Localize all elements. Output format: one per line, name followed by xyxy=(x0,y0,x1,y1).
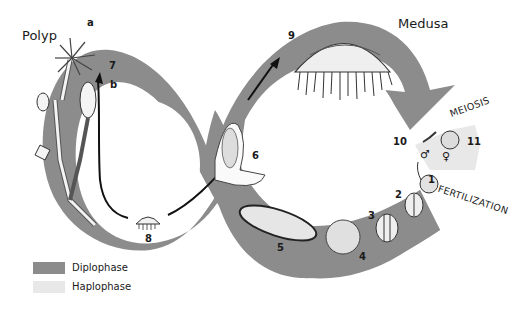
legend-label-haplophase: Haplophase xyxy=(72,281,131,292)
female-symbol: ♀ xyxy=(442,150,450,163)
two-cell-illustration xyxy=(405,193,423,217)
stage-3-number: 3 xyxy=(368,210,375,221)
stage-4-number: 4 xyxy=(359,251,366,262)
stage-6-number: 6 xyxy=(252,150,259,161)
stage-5-number: 5 xyxy=(277,242,284,253)
male-symbol: ♂ xyxy=(420,148,430,161)
left-loop-hole xyxy=(90,100,200,230)
stage-8-number: 8 xyxy=(145,233,152,244)
stage-1-number: 1 xyxy=(428,174,435,185)
label-b: b xyxy=(110,79,117,90)
medusa-label: Medusa xyxy=(398,16,448,31)
life-cycle-diagram: Polyp Medusa a b 1 2 3 4 5 6 7 8 9 10 11… xyxy=(0,0,531,309)
stage-7-number: 7 xyxy=(109,60,116,71)
polyp-label: Polyp xyxy=(22,28,57,43)
label-a: a xyxy=(87,17,94,28)
stage-11-number: 11 xyxy=(467,136,481,147)
stage-10-number: 10 xyxy=(393,136,407,147)
blastula-illustration xyxy=(326,220,360,254)
legend-swatch-diplophase xyxy=(33,262,65,274)
stage-2-number: 2 xyxy=(395,189,402,200)
legend-swatch-haplophase xyxy=(33,281,65,293)
stage-9-number: 9 xyxy=(288,30,295,41)
legend-label-diplophase: Diplophase xyxy=(72,262,128,273)
four-cell-illustration xyxy=(376,214,398,242)
egg-illustration xyxy=(441,131,459,149)
